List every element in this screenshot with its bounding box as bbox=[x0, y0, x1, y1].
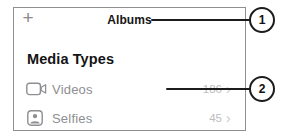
annotated-screenshot: + Albums Media Types Videos 186 › Selfie… bbox=[0, 0, 283, 138]
chevron-right-icon: › bbox=[226, 110, 231, 126]
video-camera-icon bbox=[26, 82, 47, 100]
row-label: Selfies bbox=[52, 111, 92, 126]
callout-circle-1: 1 bbox=[249, 7, 275, 33]
row-count: 45 bbox=[180, 112, 222, 124]
row-label: Videos bbox=[52, 82, 93, 97]
callout-circle-2: 2 bbox=[249, 76, 275, 102]
callout-number: 1 bbox=[259, 13, 266, 27]
callout-line-2 bbox=[166, 88, 251, 90]
callout-line-1 bbox=[151, 19, 251, 21]
section-header-media-types: Media Types bbox=[27, 51, 114, 67]
selfie-icon bbox=[27, 110, 43, 130]
callout-number: 2 bbox=[259, 82, 266, 96]
